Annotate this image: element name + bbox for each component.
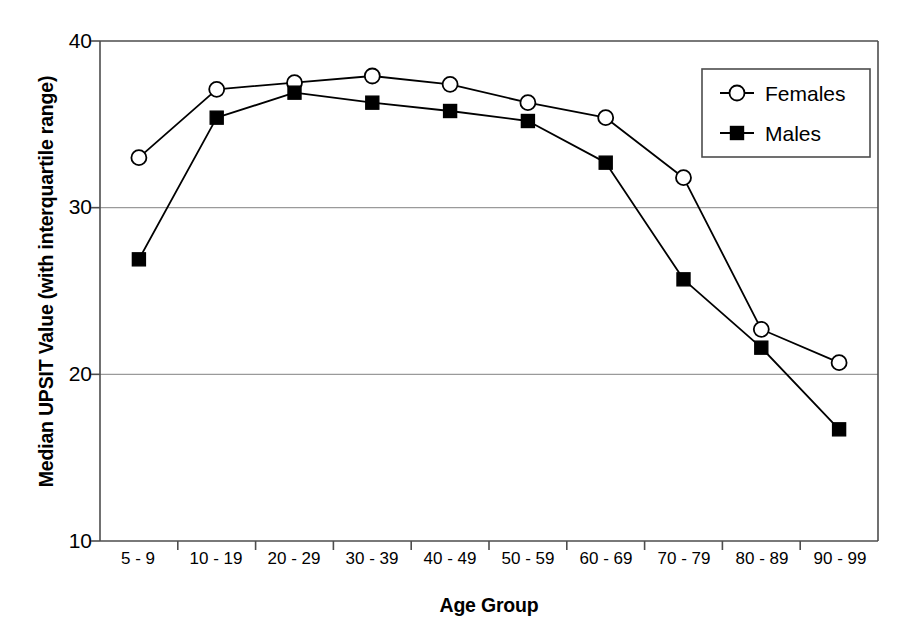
data-point-males-3	[366, 96, 379, 109]
plot-area: FemalesMales	[0, 0, 904, 638]
chart-container: Median UPSIT Value (with interquartile r…	[0, 0, 904, 638]
data-point-males-0	[132, 253, 145, 266]
data-point-males-5	[521, 115, 534, 128]
data-point-females-1	[209, 82, 224, 97]
data-point-females-4	[443, 77, 458, 92]
data-point-males-4	[444, 105, 457, 118]
data-point-males-1	[210, 111, 223, 124]
legend-label-females: Females	[765, 82, 846, 105]
legend-marker-filled-square	[731, 127, 744, 140]
y-axis-ticks	[91, 41, 100, 541]
data-point-males-8	[755, 341, 768, 354]
legend: FemalesMales	[702, 69, 870, 157]
data-point-females-5	[520, 95, 535, 110]
data-point-females-3	[365, 69, 380, 84]
data-point-females-8	[754, 322, 769, 337]
legend-label-males: Males	[765, 122, 821, 145]
data-point-males-7	[677, 273, 690, 286]
data-point-females-6	[598, 110, 613, 125]
data-point-males-6	[599, 156, 612, 169]
x-axis-ticks	[178, 541, 800, 550]
legend-marker-open-circle	[730, 86, 745, 101]
data-point-males-2	[288, 86, 301, 99]
data-point-females-7	[676, 170, 691, 185]
data-point-females-0	[131, 150, 146, 165]
data-point-males-9	[833, 423, 846, 436]
data-point-females-9	[832, 355, 847, 370]
